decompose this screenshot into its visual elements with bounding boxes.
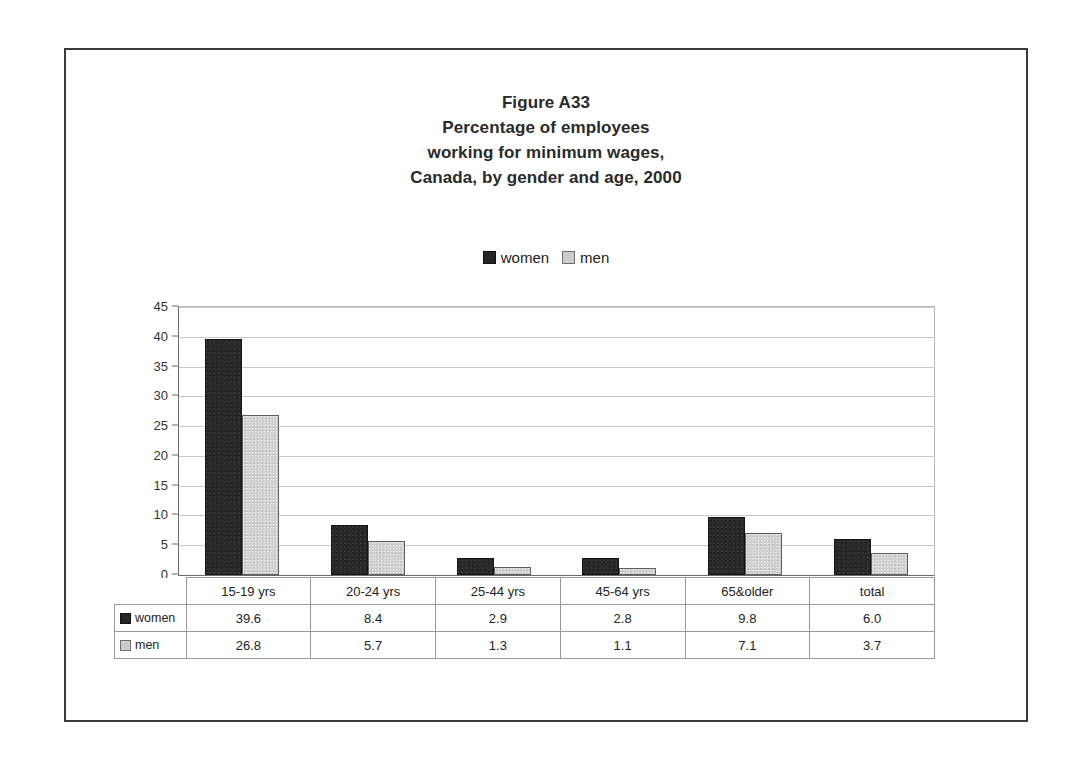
- table-cell: 1.1: [560, 632, 685, 659]
- bar-men: [242, 415, 279, 575]
- data-table: 15-19 yrs20-24 yrs25-44 yrs45-64 yrs65&o…: [114, 577, 935, 659]
- bar-group: [431, 307, 557, 575]
- bar-women: [582, 558, 619, 575]
- chart-title: Figure A33 Percentage of employees worki…: [66, 90, 1026, 190]
- table-column-header: 20-24 yrs: [311, 578, 436, 605]
- bar-men: [368, 541, 405, 575]
- legend-label-women: women: [501, 249, 549, 266]
- chart-legend: women men: [66, 249, 1026, 266]
- table-cell: 6.0: [810, 605, 935, 632]
- table-column-header: 25-44 yrs: [436, 578, 561, 605]
- y-axis-tick-label: 10: [154, 507, 168, 522]
- table-cell: 7.1: [685, 632, 810, 659]
- table-row-legend-cell: women: [115, 605, 187, 632]
- table-column-header: 65&older: [685, 578, 810, 605]
- dark-square-icon: [120, 613, 131, 624]
- table-cell: 2.8: [560, 605, 685, 632]
- bar-men: [619, 568, 656, 575]
- bar-group: [682, 307, 808, 575]
- table-row-legend-cell: men: [115, 632, 187, 659]
- legend-label-men: men: [580, 249, 609, 266]
- table-cell: 39.6: [186, 605, 311, 632]
- y-axis-tick-label: 5: [161, 537, 168, 552]
- y-axis-tick-label: 20: [154, 447, 168, 462]
- y-axis-tick-label: 15: [154, 477, 168, 492]
- table-cell: 3.7: [810, 632, 935, 659]
- chart-title-line-2: Percentage of employees: [66, 115, 1026, 140]
- y-axis-tick-label: 40: [154, 328, 168, 343]
- y-axis: 051015202530354045: [130, 306, 178, 576]
- bar-women: [205, 339, 242, 575]
- bar-men: [494, 567, 531, 575]
- table-column-header: 15-19 yrs: [186, 578, 311, 605]
- table-row: men26.85.71.31.17.13.7: [115, 632, 935, 659]
- plot-wrapper: 051015202530354045: [130, 306, 935, 576]
- table-column-header: 45-64 yrs: [560, 578, 685, 605]
- light-square-icon: [562, 251, 575, 264]
- bar-group: [305, 307, 431, 575]
- y-axis-tick-label: 25: [154, 418, 168, 433]
- bar-women: [457, 558, 494, 575]
- chart-title-line-3: working for minimum wages,: [66, 140, 1026, 165]
- bar-group: [556, 307, 682, 575]
- y-axis-tick-label: 35: [154, 358, 168, 373]
- bar-men: [871, 553, 908, 575]
- bar-men: [745, 533, 782, 575]
- dark-square-icon: [483, 251, 496, 264]
- bars-layer: [179, 307, 934, 575]
- table-cell: 8.4: [311, 605, 436, 632]
- bar-women: [708, 517, 745, 575]
- y-axis-tick-label: 30: [154, 388, 168, 403]
- plot-area: [178, 306, 935, 576]
- bar-group: [179, 307, 305, 575]
- table-cell: 2.9: [436, 605, 561, 632]
- chart-title-line-1: Figure A33: [66, 90, 1026, 115]
- table-corner-cell: [115, 578, 187, 605]
- legend-item-men: men: [562, 249, 609, 266]
- table-row: women39.68.42.92.89.86.0: [115, 605, 935, 632]
- data-table-head: 15-19 yrs20-24 yrs25-44 yrs45-64 yrs65&o…: [115, 578, 935, 605]
- table-cell: 5.7: [311, 632, 436, 659]
- table-row-label: women: [135, 611, 175, 625]
- bar-group: [808, 307, 934, 575]
- legend-item-women: women: [483, 249, 549, 266]
- bar-women: [834, 539, 871, 575]
- table-row-label: men: [135, 638, 159, 652]
- table-header-row: 15-19 yrs20-24 yrs25-44 yrs45-64 yrs65&o…: [115, 578, 935, 605]
- table-cell: 1.3: [436, 632, 561, 659]
- chart-title-line-4: Canada, by gender and age, 2000: [66, 165, 1026, 190]
- table-column-header: total: [810, 578, 935, 605]
- y-axis-tick-label: 45: [154, 299, 168, 314]
- data-table-body: women39.68.42.92.89.86.0men26.85.71.31.1…: [115, 605, 935, 659]
- table-cell: 9.8: [685, 605, 810, 632]
- figure-frame: Figure A33 Percentage of employees worki…: [64, 48, 1028, 722]
- table-cell: 26.8: [186, 632, 311, 659]
- bar-women: [331, 525, 368, 575]
- light-square-icon: [120, 640, 131, 651]
